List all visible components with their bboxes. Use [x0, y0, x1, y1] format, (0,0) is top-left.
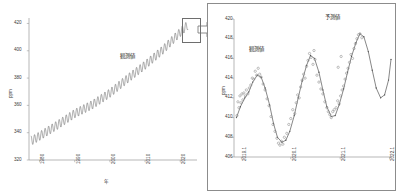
observed-co2-curve	[31, 23, 188, 145]
tick-label: 420	[225, 17, 233, 22]
tick-label: 410	[225, 115, 233, 120]
tick-label: 2000	[112, 154, 117, 164]
tick-label: 340	[14, 130, 22, 135]
right-observed-annotation: 観測値	[249, 47, 264, 52]
left-observed-annotation: 観測値	[120, 54, 135, 59]
tick-label: 2022.1	[391, 147, 396, 161]
tick-label: 320	[14, 158, 22, 163]
tick-label: 380	[14, 76, 22, 81]
right-chart-panel	[207, 3, 396, 191]
tick-label: 420	[14, 21, 22, 26]
tick-label: 2010	[147, 154, 152, 164]
tick-label: 2021.1	[342, 147, 347, 161]
left-axes	[27, 18, 197, 162]
left-chart-svg	[0, 0, 200, 196]
right-predicted-annotation: 予測値	[325, 15, 340, 20]
tick-label: 2020	[182, 154, 187, 164]
tick-label: 400	[14, 48, 22, 53]
tick-label: 406	[225, 155, 233, 160]
left-chart-panel: ppm 年 19801990200020102020 3203403603804…	[0, 0, 200, 196]
tick-label: 414	[225, 76, 233, 81]
tick-label: 418	[225, 36, 233, 41]
tick-label: 1980	[41, 154, 46, 164]
tick-label: 412	[225, 95, 233, 100]
tick-label: 2020.1	[293, 147, 298, 161]
tick-label: 1990	[77, 154, 82, 164]
left-curve-group	[31, 23, 188, 145]
tick-label: 408	[225, 135, 233, 140]
tick-label: 2019.1	[243, 147, 248, 161]
tick-label: 360	[14, 103, 22, 108]
tick-label: 416	[225, 56, 233, 61]
figure-root: ppm 年 19801990200020102020 3203403603804…	[0, 0, 399, 196]
